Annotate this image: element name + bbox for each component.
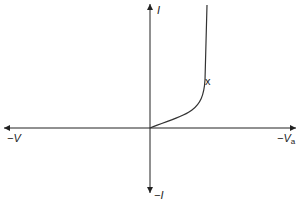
x-axis-positive-label: −Va <box>277 133 295 146</box>
x-axis-negative-label: −V <box>7 133 21 144</box>
y-axis-negative-label: −I <box>154 190 163 201</box>
y-axis-positive-label: I <box>157 5 160 16</box>
x-axis-positive-main: −V <box>277 132 291 144</box>
x-axis-positive-subscript: a <box>291 137 295 146</box>
curve-marker-label: x <box>205 76 211 87</box>
iv-curve <box>150 5 207 128</box>
diagram-canvas <box>0 0 300 206</box>
